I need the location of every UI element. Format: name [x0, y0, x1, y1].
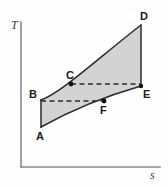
point-label-d: D [140, 10, 148, 22]
point-label-e: E [143, 88, 150, 100]
temperature-axis-label: T [11, 18, 19, 32]
point-label-b: B [29, 88, 37, 100]
point-label-a: A [36, 130, 44, 142]
ts-diagram-figure: T s A B C D E F [0, 0, 168, 188]
point-marker-f [102, 99, 107, 104]
point-label-f: F [100, 104, 107, 116]
point-marker-c [69, 82, 74, 87]
point-label-c: C [66, 69, 74, 81]
ts-diagram-canvas: T s A B C D E F [0, 0, 168, 188]
shaded-process-area [41, 25, 141, 127]
entropy-axis-label: s [150, 168, 155, 182]
